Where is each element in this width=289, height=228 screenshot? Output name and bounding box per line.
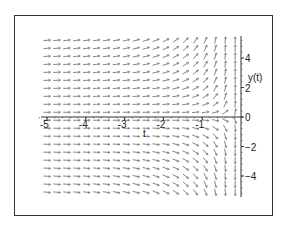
x-tick-label: -2 — [156, 119, 165, 130]
y-axis-ticks: 420−2−4 — [241, 40, 257, 193]
slope-arrow — [193, 62, 198, 67]
t-axis-label: t — [143, 128, 146, 139]
slope-arrow — [203, 150, 208, 155]
slope-arrow — [183, 38, 188, 43]
y-tick-label: −2 — [245, 142, 257, 153]
x-tick-label: -5 — [40, 119, 49, 130]
plot-frame: -5-4-3-2-1 420−2−4 t y(t) — [14, 15, 273, 216]
x-tick-label: -1 — [195, 119, 204, 130]
x-tick-label: -4 — [79, 119, 88, 130]
x-tick-label: -3 — [118, 119, 127, 130]
slope-arrow — [183, 182, 188, 187]
y-tick-label: 2 — [245, 83, 251, 94]
slope-arrow — [203, 86, 208, 91]
slope-arrow — [203, 78, 208, 83]
y-tick-label: 0 — [245, 112, 251, 123]
slope-arrow — [183, 190, 188, 195]
slope-arrow — [213, 134, 218, 139]
slope-arrow — [193, 70, 198, 75]
direction-field-plot: -5-4-3-2-1 420−2−4 t y(t) — [15, 16, 274, 217]
y-tick-label: 4 — [245, 53, 251, 64]
y-axis-label: y(t) — [248, 72, 262, 83]
slope-arrow — [193, 174, 198, 179]
slope-arrow — [193, 54, 198, 59]
y-tick-label: −4 — [245, 171, 257, 182]
slope-arrow — [193, 166, 198, 171]
slope-field-arrows — [44, 37, 237, 196]
slope-arrow — [213, 94, 217, 99]
slope-arrow — [193, 158, 198, 162]
slope-arrow — [203, 142, 208, 147]
slope-arrow — [183, 46, 188, 51]
